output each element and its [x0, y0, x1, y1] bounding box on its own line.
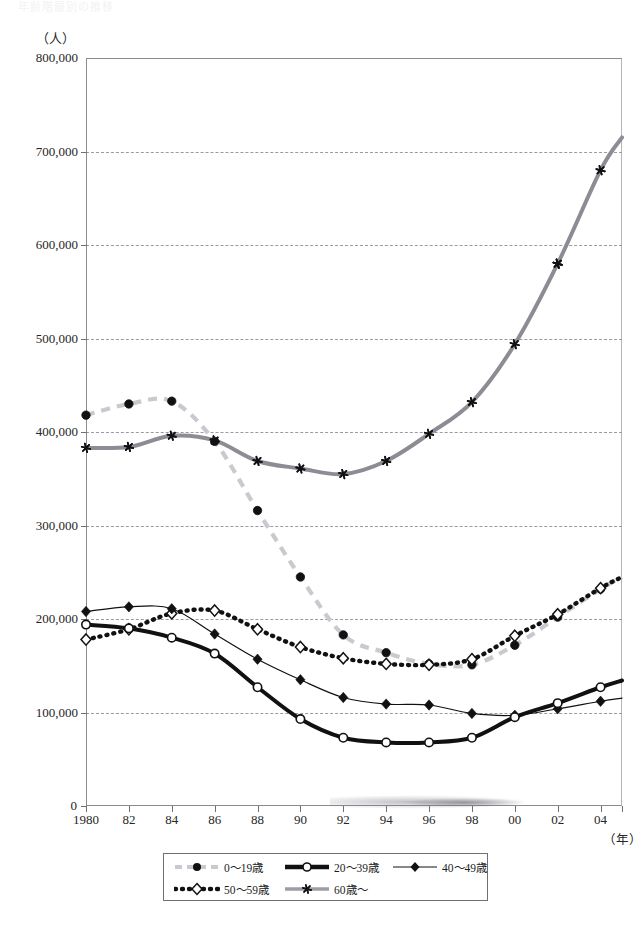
legend-item[interactable]: 20〜39歳	[284, 859, 379, 875]
legend-row: 50〜59歳60歳〜	[164, 878, 487, 899]
data-point-marker	[253, 506, 261, 514]
y-axis-tick-label: 100,000	[36, 705, 78, 721]
x-axis-tick-label: 82	[122, 812, 135, 828]
data-point-marker	[82, 411, 90, 419]
series-line	[86, 625, 622, 743]
y-axis-tick-label: 800,000	[36, 50, 78, 66]
figure-root: 年齢階層別の推移 （人） 800,000700,000600,000500,00…	[0, 0, 642, 930]
legend-key	[284, 860, 330, 874]
data-point-marker	[424, 700, 433, 710]
series-layer	[86, 58, 622, 806]
y-axis-tick-label: 700,000	[36, 144, 78, 160]
x-axis-tick-label: 94	[380, 812, 393, 828]
legend-label: 0〜19歳	[224, 859, 263, 875]
y-axis-labels: 800,000700,000600,000500,000400,000300,0…	[0, 58, 86, 806]
x-axis-tick	[622, 806, 623, 812]
x-axis-tick-label: 90	[294, 812, 307, 828]
x-axis-tick-label: 84	[165, 812, 178, 828]
legend-key-icon	[174, 882, 220, 896]
data-point-marker	[511, 713, 519, 721]
data-point-marker	[339, 470, 348, 479]
data-point-marker	[382, 699, 391, 709]
legend-key-icon	[284, 882, 330, 896]
data-point-marker	[210, 629, 219, 639]
data-point-marker	[253, 683, 261, 691]
data-point-marker	[210, 437, 218, 445]
series-line	[86, 137, 622, 474]
data-point-marker	[339, 734, 347, 742]
x-axis-labels: 1980828486889092949698000204（年）	[86, 812, 622, 852]
data-point-marker	[253, 654, 262, 664]
y-axis-unit-label: （人）	[36, 28, 75, 47]
data-point-marker	[553, 699, 561, 707]
x-axis-tick-label: 88	[251, 812, 264, 828]
legend-label: 40〜49歳	[442, 859, 487, 875]
legend-item[interactable]: 50〜59歳	[174, 881, 269, 897]
legend-row: 0〜19歳20〜39歳40〜49歳	[164, 856, 487, 877]
y-axis-tick-label: 300,000	[36, 518, 78, 534]
y-axis-tick-label: 400,000	[36, 424, 78, 440]
y-axis-tick-label: 500,000	[36, 331, 78, 347]
legend-label: 50〜59歳	[224, 881, 269, 897]
data-point-marker	[425, 738, 433, 746]
data-point-marker	[424, 659, 434, 670]
x-axis-tick-label: 98	[465, 812, 478, 828]
data-point-marker	[296, 675, 305, 685]
data-point-marker	[339, 631, 347, 639]
series-60歳〜	[82, 137, 622, 478]
x-axis-tick-label: 02	[551, 812, 564, 828]
plot-area	[86, 58, 622, 806]
data-point-marker	[210, 649, 218, 657]
chart-legend: 0〜19歳20〜39歳40〜49歳 50〜59歳60歳〜	[163, 853, 488, 901]
data-point-marker	[382, 457, 391, 466]
data-point-marker	[296, 573, 304, 581]
data-point-marker	[124, 602, 133, 612]
legend-key-icon	[284, 860, 330, 874]
data-point-marker	[338, 653, 348, 664]
legend-key	[174, 860, 220, 874]
data-point-marker	[596, 166, 605, 175]
data-point-marker	[511, 340, 520, 349]
data-point-marker	[381, 658, 391, 669]
y-axis-tick-label: 200,000	[36, 611, 78, 627]
legend-key	[392, 860, 438, 874]
legend-label: 20〜39歳	[334, 859, 379, 875]
legend-key-icon	[174, 860, 220, 874]
legend-item[interactable]: 40〜49歳	[392, 859, 487, 875]
data-point-marker	[125, 624, 133, 632]
data-point-marker	[467, 708, 476, 718]
legend-item[interactable]: 60歳〜	[284, 881, 368, 897]
data-point-marker	[296, 464, 305, 473]
data-point-marker	[296, 715, 304, 723]
x-axis-tick-label: 92	[337, 812, 350, 828]
data-point-marker	[468, 734, 476, 742]
series-50〜59歳	[81, 577, 622, 670]
x-axis-tick-label: 00	[508, 812, 521, 828]
x-axis-tick-label: 04	[594, 812, 607, 828]
y-axis-tick-label: 600,000	[36, 237, 78, 253]
data-point-marker	[295, 641, 305, 652]
data-point-marker	[596, 683, 604, 691]
figure-title-faint: 年齢階層別の推移	[18, 0, 438, 14]
x-axis-tick-label: 86	[208, 812, 221, 828]
data-point-marker	[425, 430, 434, 439]
data-point-marker	[382, 738, 390, 746]
data-point-marker	[339, 692, 348, 702]
data-point-marker	[168, 397, 176, 405]
data-point-marker	[82, 620, 90, 628]
data-point-marker	[125, 443, 134, 452]
data-point-marker	[168, 431, 177, 440]
legend-key	[284, 882, 330, 896]
series-line	[86, 399, 622, 667]
legend-label: 60歳〜	[334, 881, 368, 897]
legend-key-icon	[392, 860, 438, 874]
data-point-marker	[596, 696, 605, 706]
data-point-marker	[125, 400, 133, 408]
data-point-marker	[468, 398, 477, 407]
data-point-marker	[553, 259, 562, 268]
legend-item[interactable]: 0〜19歳	[174, 859, 263, 875]
x-axis-tick-label: 96	[423, 812, 436, 828]
data-point-marker	[382, 648, 390, 656]
data-point-marker	[210, 605, 220, 616]
legend-key	[174, 882, 220, 896]
